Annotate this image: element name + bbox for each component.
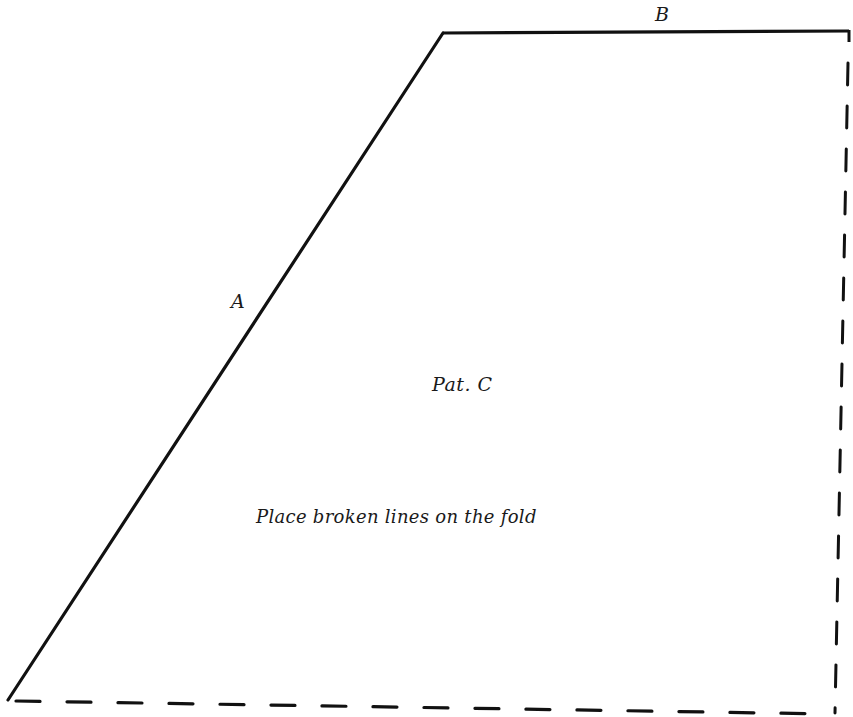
edge-b-line: [443, 31, 849, 33]
fold-instruction: Place broken lines on the fold: [256, 508, 537, 526]
pattern-piece-diagram: [0, 0, 853, 717]
edge-a-label: A: [231, 292, 245, 311]
right-fold-line: [835, 63, 848, 713]
edge-b-label: B: [655, 5, 669, 24]
bottom-fold-line: [16, 701, 830, 714]
edge-a-line: [8, 33, 443, 700]
pattern-name: Pat. C: [432, 375, 493, 394]
